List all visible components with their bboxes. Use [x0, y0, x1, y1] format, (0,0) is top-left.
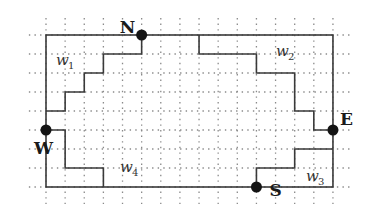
w1-path: [46, 35, 142, 111]
point-e-label: E: [340, 109, 353, 129]
point-w-label: W: [33, 138, 54, 158]
point-n-dot: [136, 30, 147, 41]
point-s-dot: [251, 182, 262, 193]
point-w-dot: [41, 125, 52, 136]
w2-path: [199, 35, 333, 130]
compass-points: NWES: [33, 17, 353, 200]
w4-path: [46, 130, 103, 187]
point-s-label: S: [269, 180, 281, 200]
point-n-label: N: [120, 17, 136, 37]
region-w4-subscript: 4: [132, 167, 138, 178]
lattice-diagram: NWES w1w2w3w4: [0, 0, 370, 212]
point-e-dot: [327, 125, 338, 136]
region-w3-subscript: 3: [318, 176, 324, 187]
region-w2-subscript: 2: [288, 51, 294, 62]
region-labels: w1w2w3w4: [56, 42, 324, 187]
region-w1-subscript: 1: [68, 60, 74, 71]
